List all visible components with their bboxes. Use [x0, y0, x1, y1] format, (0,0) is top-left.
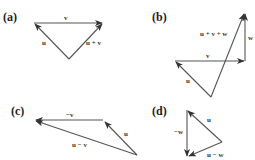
- vector-u-minus-v-label: u − v: [72, 141, 87, 149]
- panel-c-label: (c): [11, 104, 24, 118]
- vector-u-label: u: [42, 39, 46, 47]
- vector-neg-w-label: −w: [174, 128, 184, 136]
- vector-u-arrow: [35, 24, 69, 59]
- panel-c: (c) −v u u − v: [11, 104, 137, 155]
- vector-u-minus-w-label: u − w: [207, 151, 224, 159]
- vector-u-plus-v-plus-w-label: u + v + w: [200, 30, 228, 38]
- vector-w-label: w: [248, 34, 254, 42]
- panel-b: (b) v w u u + v + w: [152, 10, 254, 97]
- vector-u-minus-v-arrow: [36, 121, 137, 155]
- vector-v-label: v: [206, 52, 210, 60]
- panel-d: (d) u −w u − w: [152, 104, 224, 159]
- vector-u-label: u: [124, 130, 128, 138]
- vector-u-arrow: [188, 111, 222, 142]
- vector-v-label: v: [64, 14, 68, 22]
- panel-a-label: (a): [3, 10, 17, 24]
- vector-u-arrow: [176, 62, 211, 97]
- vector-u-plus-v-plus-w-arrow: [211, 14, 244, 97]
- panel-a: (a) v u u + v: [3, 10, 102, 59]
- vector-u-label: u: [186, 77, 190, 85]
- panel-d-label: (d): [152, 104, 167, 118]
- vector-neg-v-label: −v: [66, 111, 74, 119]
- vector-u-label: u: [207, 116, 211, 124]
- vector-diagram: (a) v u u + v (b) v w u u + v + w (c) −v…: [0, 0, 255, 160]
- vector-u-plus-v-label: u + v: [86, 39, 101, 47]
- panel-b-label: (b): [152, 10, 167, 24]
